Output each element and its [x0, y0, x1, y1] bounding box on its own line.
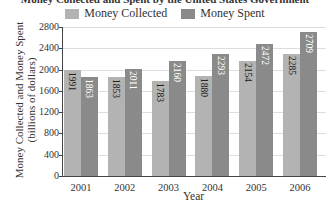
bar-collected-2006: 2285: [283, 54, 300, 176]
legend-swatch-spent: [181, 9, 195, 19]
bar-spent-2001: 1863: [81, 77, 98, 176]
bar-value-label: 2709: [300, 34, 317, 53]
gridline: [63, 27, 326, 28]
plot-area: 0400800120016002000240028001991186320011…: [62, 27, 326, 177]
y-tick-mark: [59, 176, 63, 177]
y-tick-mark: [59, 70, 63, 71]
y-tick-label: 0: [33, 170, 59, 181]
bar-spent-2004: 2293: [212, 54, 229, 176]
legend-swatch-collected: [65, 9, 79, 19]
bar-value-label: 1853: [108, 79, 125, 98]
bar-value-label: 2160: [169, 63, 186, 82]
bar-collected-2004: 1880: [195, 76, 212, 176]
bar-spent-2003: 2160: [169, 61, 186, 176]
bar-value-label: 2472: [256, 46, 273, 65]
y-tick-label: 800: [33, 127, 59, 138]
bar-value-label: 1783: [152, 83, 169, 102]
y-tick-mark: [59, 91, 63, 92]
y-tick-mark: [59, 112, 63, 113]
bar-spent-2002: 2011: [125, 69, 142, 176]
bar-spent-2005: 2472: [256, 44, 273, 176]
bar-collected-2002: 1853: [108, 77, 125, 176]
bar-value-label: 1863: [81, 79, 98, 98]
bar-spent-2006: 2709: [300, 32, 317, 176]
bar-value-label: 2285: [283, 56, 300, 75]
bar-value-label: 2011: [125, 71, 142, 90]
chart-title: Money Collected and Spent by the United …: [0, 0, 330, 5]
y-tick-label: 1200: [33, 106, 59, 117]
y-tick-mark: [59, 133, 63, 134]
gridline: [63, 48, 326, 49]
y-tick-mark: [59, 155, 63, 156]
legend-label-spent: Money Spent: [200, 6, 264, 21]
y-tick-label: 2800: [33, 21, 59, 32]
bar-value-label: 2293: [212, 56, 229, 75]
bar-value-label: 1880: [195, 78, 212, 97]
legend: Money Collected Money Spent: [0, 6, 330, 21]
y-tick-label: 2400: [33, 42, 59, 53]
y-tick-label: 2000: [33, 64, 59, 75]
x-axis-label: Year: [62, 190, 325, 202]
y-tick-label: 1600: [33, 85, 59, 96]
y-tick-label: 400: [33, 149, 59, 160]
bar-value-label: 2154: [239, 63, 256, 82]
legend-label-collected: Money Collected: [84, 6, 167, 21]
bar-value-label: 1991: [64, 72, 81, 91]
bar-collected-2005: 2154: [239, 61, 256, 176]
legend-item-collected: Money Collected: [65, 6, 167, 21]
bar-collected-2003: 1783: [152, 81, 169, 176]
y-tick-mark: [59, 48, 63, 49]
y-tick-mark: [59, 27, 63, 28]
bar-collected-2001: 1991: [64, 70, 81, 176]
legend-item-spent: Money Spent: [181, 6, 264, 21]
